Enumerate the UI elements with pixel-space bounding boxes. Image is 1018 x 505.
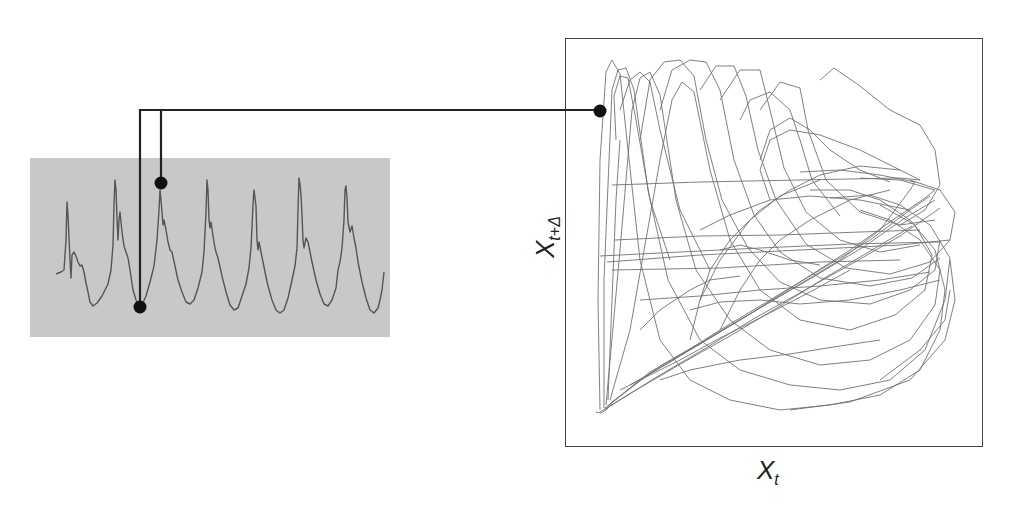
time-series-trace xyxy=(56,178,384,313)
marker-xt xyxy=(134,301,147,314)
y-axis-label: Xt+Δ xyxy=(530,216,564,258)
marker-xt-delta xyxy=(155,177,168,190)
figure: Xt Xt+Δ xyxy=(0,0,1018,505)
figure-graphics xyxy=(0,0,1018,505)
x-axis-label: Xt xyxy=(757,455,779,489)
marker-embedded-point xyxy=(594,105,607,118)
phase-space-attractor xyxy=(596,60,955,413)
